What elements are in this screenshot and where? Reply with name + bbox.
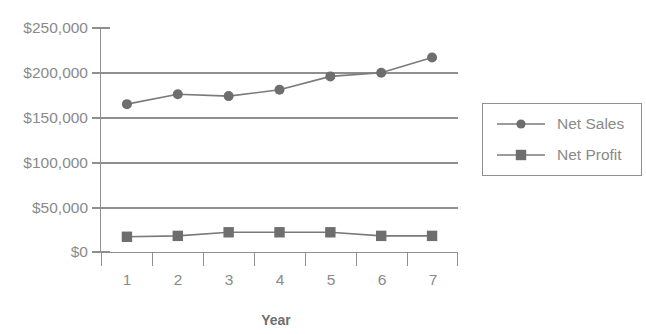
series-layer <box>122 53 438 242</box>
y-axis <box>92 28 110 252</box>
y-tick-label-50000: $50,000 <box>32 199 88 216</box>
square-marker <box>274 227 284 237</box>
square-marker <box>122 232 132 242</box>
chart-container: $250,000 $200,000 $150,000 $100,000 $50,… <box>0 0 646 334</box>
x-tick-label-4: 4 <box>276 271 285 288</box>
square-marker <box>376 231 386 241</box>
circle-marker <box>224 91 234 101</box>
y-tick-label-250000: $250,000 <box>23 19 88 36</box>
square-marker <box>223 227 233 237</box>
circle-marker <box>325 71 335 81</box>
x-tick-label-7: 7 <box>429 271 438 288</box>
x-axis <box>100 252 458 266</box>
legend: Net Sales Net Profit <box>483 104 642 176</box>
series-net-sales <box>122 53 437 110</box>
x-tick-label-2: 2 <box>174 271 183 288</box>
x-tick-label-3: 3 <box>225 271 234 288</box>
square-marker <box>427 231 437 241</box>
y-tick-label-200000: $200,000 <box>23 64 88 81</box>
y-tick-labels: $250,000 $200,000 $150,000 $100,000 $50,… <box>23 19 88 260</box>
x-tick-label-6: 6 <box>378 271 387 288</box>
series-line <box>127 58 432 105</box>
square-marker <box>325 227 335 237</box>
circle-marker <box>275 85 285 95</box>
y-tick-label-150000: $150,000 <box>23 109 88 126</box>
circle-marker <box>516 119 525 128</box>
circle-marker <box>173 89 183 99</box>
y-tick-label-100000: $100,000 <box>23 154 88 171</box>
circle-marker <box>376 68 386 78</box>
circle-marker <box>427 53 437 63</box>
square-marker <box>516 150 526 160</box>
y-tick-label-0: $0 <box>71 243 89 260</box>
square-marker <box>173 231 183 241</box>
line-chart: $250,000 $200,000 $150,000 $100,000 $50,… <box>0 0 646 334</box>
series-net-profit <box>122 227 438 242</box>
x-tick-label-1: 1 <box>123 271 132 288</box>
x-axis-title: Year <box>261 312 291 328</box>
x-tick-labels: 1 2 3 4 5 6 7 <box>123 271 438 288</box>
x-tick-label-5: 5 <box>327 271 336 288</box>
circle-marker <box>122 99 132 109</box>
legend-label-net-sales: Net Sales <box>557 115 624 132</box>
legend-label-net-profit: Net Profit <box>557 146 622 163</box>
